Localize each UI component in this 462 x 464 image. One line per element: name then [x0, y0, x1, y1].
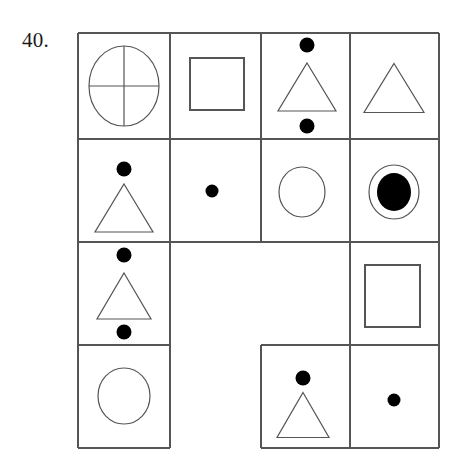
circle-icon: [98, 368, 150, 424]
puzzle-grid-svg: [0, 0, 462, 464]
dot-icon: [296, 371, 311, 386]
triangle-icon: [364, 64, 424, 113]
dot-icon: [206, 185, 219, 198]
triangle-icon: [95, 184, 153, 232]
filled-circle-icon: [377, 173, 411, 211]
dot-icon: [117, 162, 132, 177]
triangle-icon: [97, 273, 151, 319]
triangle-icon: [277, 393, 329, 438]
cell-open-circle: [279, 167, 325, 217]
cell-square: [190, 58, 244, 110]
cell-filled-circle-in-circle: [369, 165, 419, 219]
dot-icon: [117, 325, 132, 340]
cell-dot-triangle-2: [277, 371, 329, 438]
cell-open-circle-2: [98, 368, 150, 424]
square-icon: [365, 265, 420, 327]
dot-icon: [300, 38, 315, 53]
circle-icon: [279, 167, 325, 217]
figure-matrix-puzzle: 40.: [0, 0, 462, 464]
dot-icon: [117, 248, 132, 263]
dot-icon: [300, 119, 315, 134]
cell-dot-triangle-dot-2: [97, 248, 151, 340]
square-icon: [190, 58, 244, 110]
dot-icon: [388, 394, 401, 407]
grid-lines: [78, 33, 439, 448]
cell-single-dot: [206, 185, 219, 198]
cell-circle-with-cross: [89, 46, 159, 126]
cell-triangle: [364, 64, 424, 113]
cell-square-2: [365, 265, 420, 327]
triangle-icon: [278, 63, 336, 111]
cell-dot-triangle: [95, 162, 153, 233]
cell-single-dot-2: [388, 394, 401, 407]
cell-dot-triangle-dot: [278, 38, 336, 134]
